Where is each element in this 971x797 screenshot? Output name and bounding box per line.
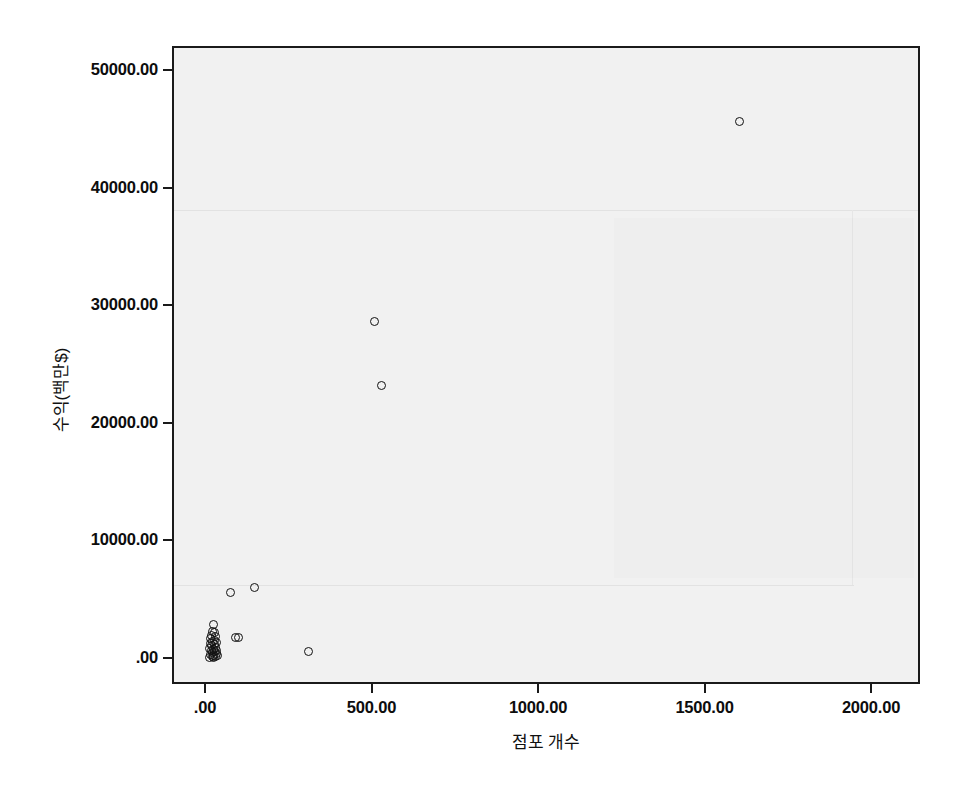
y-tick-label: 10000.00 <box>0 530 158 549</box>
data-point <box>226 588 235 597</box>
plot-area <box>172 46 920 684</box>
x-tick-label: 1000.00 <box>509 698 567 717</box>
y-tick-label: .00 <box>0 648 158 667</box>
y-tick-mark <box>163 187 172 189</box>
y-tick-label: 20000.00 <box>0 413 158 432</box>
y-tick-label: 40000.00 <box>0 178 158 197</box>
scan-artifact-block <box>614 218 914 578</box>
x-axis-title: 점포 개수 <box>512 728 581 753</box>
data-point <box>304 647 313 656</box>
scan-artifact-vline <box>852 210 853 585</box>
y-tick-mark <box>163 69 172 71</box>
x-tick-mark <box>204 684 206 693</box>
scan-artifact-line <box>174 210 920 211</box>
x-tick-label: 1500.00 <box>675 698 733 717</box>
x-tick-mark <box>537 684 539 693</box>
data-point <box>250 583 259 592</box>
x-tick-label: 500.00 <box>347 698 396 717</box>
x-tick-mark <box>371 684 373 693</box>
x-tick-label: 2000.00 <box>842 698 900 717</box>
y-tick-label: 50000.00 <box>0 60 158 79</box>
data-point <box>370 317 379 326</box>
scatter-plot-figure: .0010000.0020000.0030000.0040000.0050000… <box>0 0 971 797</box>
data-point <box>735 117 744 126</box>
y-tick-mark <box>163 422 172 424</box>
y-tick-mark <box>163 539 172 541</box>
y-tick-mark <box>163 304 172 306</box>
x-tick-mark <box>704 684 706 693</box>
data-point <box>209 653 218 662</box>
x-tick-mark <box>870 684 872 693</box>
y-tick-label: 30000.00 <box>0 295 158 314</box>
x-tick-label: .00 <box>194 698 216 717</box>
y-tick-mark <box>163 657 172 659</box>
y-axis-title-wrap: 수익(백만$) <box>44 300 74 480</box>
data-point <box>377 381 386 390</box>
y-axis-title: 수익(백만$) <box>47 348 72 433</box>
scan-artifact-line-2 <box>174 585 854 586</box>
